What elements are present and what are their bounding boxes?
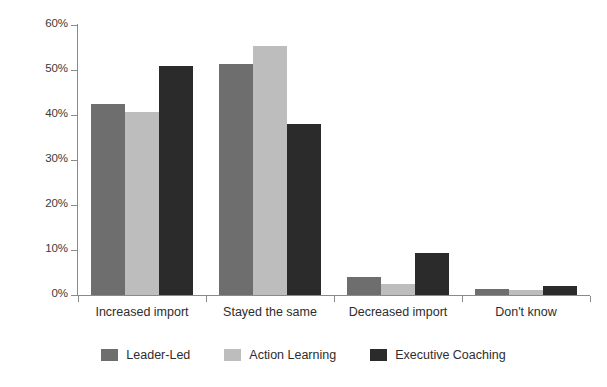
bar	[509, 290, 543, 295]
legend-swatch-icon	[370, 349, 387, 361]
bar	[415, 253, 449, 295]
bar	[347, 277, 381, 295]
y-axis-tick-label: 60%	[22, 17, 68, 29]
bar	[91, 104, 125, 295]
bar	[159, 66, 193, 295]
bar-group	[219, 25, 321, 295]
legend-item: Leader-Led	[101, 348, 190, 362]
y-axis-tick-label: 30%	[22, 152, 68, 164]
legend-item: Executive Coaching	[370, 348, 505, 362]
y-axis-tick-label: 40%	[22, 107, 68, 119]
x-axis-tick	[206, 296, 207, 302]
plot-area	[78, 25, 590, 295]
x-axis-category-label: Don't know	[446, 305, 606, 319]
y-axis-tick	[71, 205, 77, 206]
y-axis-tick	[71, 70, 77, 71]
x-axis-tick	[78, 296, 79, 302]
y-axis-tick	[71, 25, 77, 26]
bar-group	[91, 25, 193, 295]
bar	[381, 284, 415, 295]
y-axis-tick-label: 0%	[22, 287, 68, 299]
bar-group	[347, 25, 449, 295]
legend-label: Executive Coaching	[395, 348, 505, 362]
bar-chart: 0%10%20%30%40%50%60% Increased importSta…	[0, 0, 607, 387]
x-axis-tick	[590, 296, 591, 302]
x-axis-tick	[462, 296, 463, 302]
legend-item: Action Learning	[224, 348, 336, 362]
x-axis-tick	[334, 296, 335, 302]
bar	[125, 112, 159, 295]
legend-swatch-icon	[101, 349, 118, 361]
bar	[543, 286, 577, 295]
y-axis-tick	[71, 160, 77, 161]
y-axis-tick	[71, 115, 77, 116]
y-axis-tick-label: 50%	[22, 62, 68, 74]
y-axis-tick-label: 20%	[22, 197, 68, 209]
bar	[253, 46, 287, 295]
chart-legend: Leader-LedAction LearningExecutive Coach…	[0, 348, 607, 362]
bar	[219, 64, 253, 295]
bar	[287, 124, 321, 295]
y-axis-tick-label: 10%	[22, 242, 68, 254]
legend-label: Leader-Led	[126, 348, 190, 362]
bar-group	[475, 25, 577, 295]
y-axis-tick	[71, 295, 77, 296]
y-axis-tick	[71, 250, 77, 251]
legend-swatch-icon	[224, 349, 241, 361]
legend-label: Action Learning	[249, 348, 336, 362]
bar	[475, 289, 509, 295]
